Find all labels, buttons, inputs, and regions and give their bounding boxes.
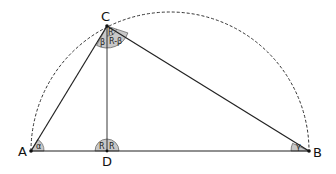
point-d: [106, 150, 109, 153]
angle-label-beta: β: [100, 38, 105, 47]
side-bc: [107, 26, 309, 151]
angle-label-d-right: R: [109, 142, 115, 151]
angle-label-r-minus-beta: R-β: [109, 37, 122, 46]
label-b: B: [313, 145, 322, 160]
angle-label-d-left: R: [99, 142, 105, 151]
angle-label-alpha: α: [36, 142, 41, 151]
label-c: C: [101, 9, 110, 24]
point-b: [307, 149, 311, 153]
label-d: D: [102, 154, 112, 169]
triangle-diagram: A B C D α γ R R β R R-β: [0, 0, 336, 174]
angle-label-c-top: R: [108, 28, 114, 37]
side-ac: [31, 26, 107, 151]
angle-label-gamma: γ: [296, 142, 301, 151]
label-a: A: [18, 144, 27, 159]
point-a: [29, 149, 33, 153]
